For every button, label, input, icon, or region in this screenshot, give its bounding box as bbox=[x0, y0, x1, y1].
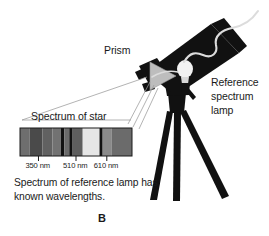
spectrum-band bbox=[61, 128, 64, 156]
lamp-base bbox=[181, 77, 189, 84]
spectrum-band bbox=[30, 128, 43, 156]
tripod-column bbox=[168, 93, 186, 113]
spectrum-band bbox=[20, 128, 30, 156]
wavelength-tick-label: 610 nm bbox=[94, 161, 118, 170]
wavelength-tick-labels: 350 nm510 nm610 nm bbox=[20, 161, 132, 173]
figure-caption: Spectrum of reference lamp has known wav… bbox=[14, 176, 164, 204]
spectrum-band bbox=[52, 128, 60, 156]
spectrum-bands bbox=[20, 128, 132, 156]
spectrum-band bbox=[112, 128, 132, 156]
spectrum-band bbox=[103, 128, 112, 156]
wavelength-tick-label: 510 nm bbox=[63, 161, 87, 170]
tripod-leg-center bbox=[173, 112, 181, 201]
spectrum-band bbox=[69, 128, 72, 156]
label-spectrum-of-star: Spectrum of star bbox=[31, 110, 106, 122]
light-ray-3 bbox=[133, 85, 154, 127]
light-ray-2 bbox=[128, 82, 150, 124]
wavelength-tick-label: 350 nm bbox=[25, 161, 49, 170]
panel-letter: B bbox=[98, 212, 106, 225]
label-reference-spectrum-lamp: Reference spectrum lamp bbox=[211, 76, 269, 118]
spectrum-band bbox=[83, 128, 100, 156]
figure-panel-b: Prism Reference spectrum lamp Spectrum o… bbox=[0, 0, 269, 236]
spectrum-band bbox=[100, 128, 103, 156]
spectrum-band bbox=[42, 128, 52, 156]
spectrum-band bbox=[73, 128, 83, 156]
lamp-socket bbox=[181, 83, 189, 92]
label-prism: Prism bbox=[104, 44, 130, 56]
spectrum-strip bbox=[20, 128, 132, 161]
spectrum-band bbox=[64, 128, 69, 156]
lamp-bulb bbox=[177, 60, 193, 78]
